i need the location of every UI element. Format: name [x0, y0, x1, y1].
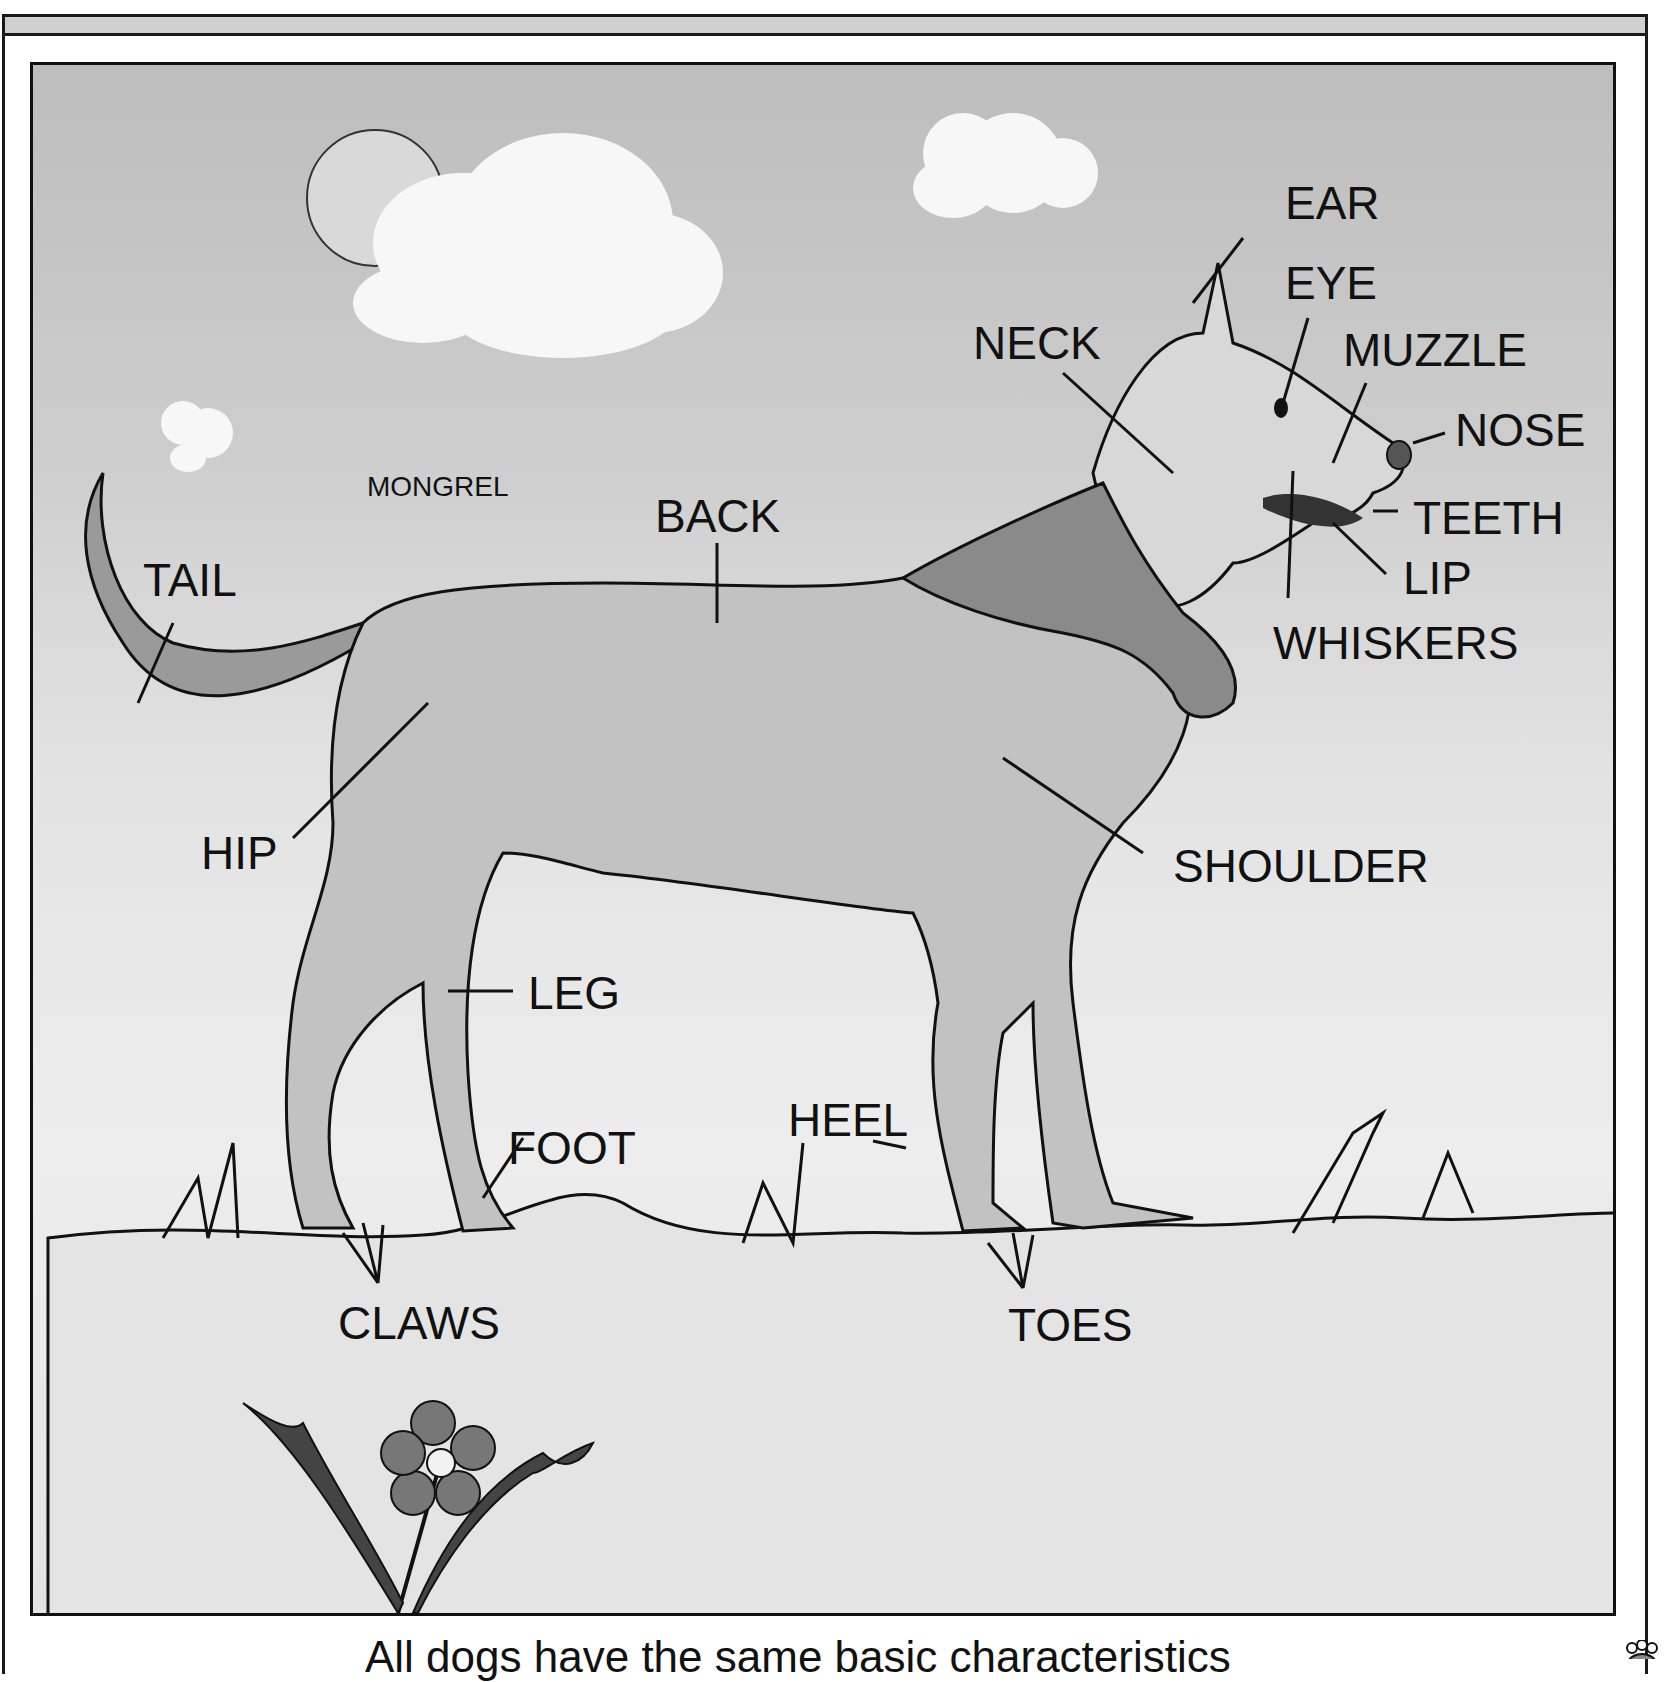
label-claws: CLAWS — [338, 1300, 500, 1346]
label-lip: LIP — [1403, 555, 1472, 601]
dog-body — [286, 563, 1193, 1231]
label-heel: HEEL — [788, 1097, 908, 1143]
label-muzzle: MUZZLE — [1343, 327, 1527, 373]
label-nose: NOSE — [1455, 407, 1585, 453]
label-neck: NECK — [973, 320, 1101, 366]
eye-shape — [1274, 398, 1288, 418]
title-label-mongrel: MONGREL — [367, 473, 509, 501]
nose-shape — [1387, 441, 1411, 469]
label-whiskers: WHISKERS — [1273, 620, 1518, 666]
label-leg: LEG — [528, 970, 620, 1016]
label-toes: TOES — [1008, 1302, 1132, 1348]
label-ear: EAR — [1285, 180, 1380, 226]
paw-print-icon — [1618, 1640, 1666, 1659]
cloud-icon — [161, 113, 1098, 472]
label-tail: TAIL — [143, 557, 237, 603]
top-frame-band — [2, 14, 1648, 36]
illustration-panel: MONGREL EAR EYE NECK MUZZLE NOSE TEETH L… — [30, 62, 1616, 1616]
label-eye: EYE — [1285, 260, 1377, 306]
caption-text: All dogs have the same basic characteris… — [365, 1632, 1231, 1682]
label-shoulder: SHOULDER — [1173, 843, 1429, 889]
label-teeth: TEETH — [1413, 495, 1564, 541]
label-back: BACK — [655, 493, 780, 539]
label-foot: FOOT — [508, 1125, 636, 1171]
label-hip: HIP — [201, 830, 278, 876]
